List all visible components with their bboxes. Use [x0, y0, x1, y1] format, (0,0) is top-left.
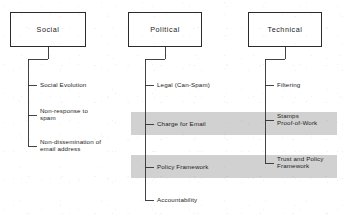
root-node-technical[interactable]: Technical: [248, 12, 322, 47]
root-node-technical-label: Technical: [268, 26, 303, 33]
leaf-non-dissemination-of-email-address[interactable]: Non-dissemination of email address: [40, 138, 101, 153]
tree-diagram: Social Social Evolution Non-response to …: [0, 0, 347, 216]
leaf-accountability[interactable]: Accountability: [157, 196, 197, 204]
leaf-non-response-to-spam[interactable]: Non-response to spam: [40, 107, 88, 122]
root-node-social[interactable]: Social: [10, 12, 86, 47]
leaf-stamps-proof-of-work[interactable]: Stamps Proof-of-Work: [277, 112, 317, 127]
leaf-filtering[interactable]: Filtering: [277, 81, 300, 89]
leaf-social-evolution[interactable]: Social Evolution: [40, 81, 86, 89]
root-node-social-label: Social: [37, 26, 60, 33]
leaf-trust-and-policy-framework[interactable]: Trust and Policy Framework: [277, 155, 324, 170]
leaf-legal-can-spam[interactable]: Legal (Can-Spam): [157, 81, 210, 89]
leaf-policy-framework[interactable]: Policy Framework: [157, 163, 209, 171]
root-node-political-label: Political: [150, 26, 180, 33]
leaf-charge-for-email[interactable]: Charge for Email: [157, 120, 206, 128]
root-node-political[interactable]: Political: [128, 12, 202, 47]
